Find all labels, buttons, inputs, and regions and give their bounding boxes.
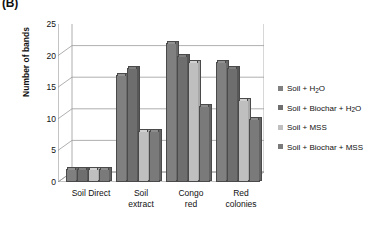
legend-item[interactable]: Soil + H2O: [278, 84, 376, 93]
plot-area: [58, 24, 264, 182]
bar-top-face: [217, 60, 226, 63]
legend-label: Soil + Biochar + H2O: [287, 104, 361, 113]
bar: [166, 43, 177, 182]
legend-swatch: [278, 144, 283, 149]
bar: [77, 169, 88, 182]
bar: [188, 62, 199, 182]
legend-item[interactable]: Soil + Biochar + MSS: [278, 143, 376, 152]
bar-top-face: [200, 104, 209, 107]
bar: [227, 68, 238, 182]
chart-legend: Soil + H2OSoil + Biochar + H2OSoil + MSS…: [278, 84, 376, 162]
bar-group: [116, 24, 166, 182]
bar-top-face: [117, 73, 126, 76]
legend-swatch: [278, 86, 283, 91]
bar-side-face: [259, 117, 262, 181]
bar: [127, 68, 138, 182]
bar-top-face: [250, 117, 259, 120]
legend-swatch: [278, 125, 283, 130]
bar: [138, 131, 149, 182]
bar-side-face: [159, 129, 162, 181]
bar: [149, 131, 160, 182]
bar-top-face: [78, 167, 87, 170]
bar-top-face: [167, 41, 176, 44]
bar-top-face: [178, 54, 187, 57]
bar-chart: Number of bands 0510152025 Soil DirectSo…: [0, 0, 378, 226]
x-axis-category-labels: Soil DirectSoil extractCongo redRed colo…: [58, 188, 270, 222]
bar: [66, 169, 77, 182]
bar: [249, 119, 260, 182]
bar: [116, 75, 127, 182]
bar-top-face: [189, 60, 198, 63]
bar-top-face: [139, 129, 148, 132]
bar: [177, 56, 188, 182]
bars-layer: [58, 24, 264, 182]
bar-top-face: [128, 66, 137, 69]
legend-label: Soil + MSS: [287, 123, 327, 132]
y-axis-tick: 25: [34, 20, 56, 29]
x-axis-category-label: Red colonies: [204, 188, 278, 210]
bar-group: [66, 24, 116, 182]
legend-swatch: [278, 105, 283, 110]
legend-label: Soil + H2O: [287, 84, 325, 93]
legend-item[interactable]: Soil + MSS: [278, 123, 376, 132]
bar: [216, 62, 227, 182]
bar: [199, 106, 210, 182]
y-axis-tick: 5: [34, 146, 56, 155]
bar: [99, 169, 110, 182]
bar-top-face: [67, 167, 76, 170]
bar-top-face: [239, 98, 248, 101]
bar-top-face: [100, 167, 109, 170]
legend-item[interactable]: Soil + Biochar + H2O: [278, 104, 376, 113]
bar-top-face: [150, 129, 159, 132]
y-axis-tick: 15: [34, 83, 56, 92]
bar-group: [166, 24, 216, 182]
bar-side-face: [109, 167, 112, 181]
bar: [238, 100, 249, 182]
y-axis-tick: 20: [34, 52, 56, 61]
y-axis-tick: 0: [34, 178, 56, 187]
bar: [88, 169, 99, 182]
bar-top-face: [228, 66, 237, 69]
y-axis-tick: 10: [34, 115, 56, 124]
y-axis-tick-labels: 0510152025: [30, 0, 56, 226]
legend-label: Soil + Biochar + MSS: [287, 143, 363, 152]
bar-side-face: [209, 104, 212, 181]
bar-top-face: [89, 167, 98, 170]
bar-group: [216, 24, 266, 182]
